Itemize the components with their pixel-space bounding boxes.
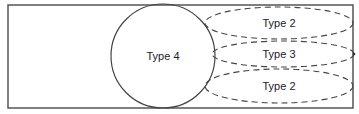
type-2-top-label: Type 2 xyxy=(262,17,295,29)
type-2-bottom-label: Type 2 xyxy=(262,80,295,92)
type-4-label: Type 4 xyxy=(146,50,179,62)
type-3-label: Type 3 xyxy=(262,48,295,60)
edge-marker-dot xyxy=(353,53,356,56)
outer-frame xyxy=(8,5,353,108)
diagram-canvas: Type 4 Type 2 Type 3 Type 2 xyxy=(0,0,359,114)
